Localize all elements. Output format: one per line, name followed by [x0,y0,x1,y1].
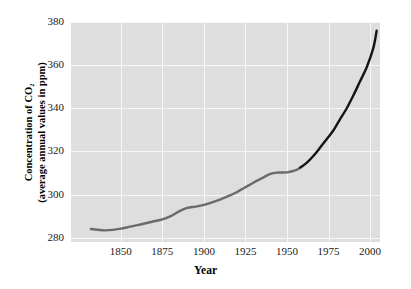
y-tick-label-300: 300 [48,189,65,200]
y-tick-label-380: 380 [48,16,65,27]
y-tick-label-340: 340 [48,102,65,113]
y-axis-title-line-2: (average annual values in ppm) [35,33,48,233]
x-tick-label-1975: 1975 [318,245,340,257]
x-tick-label-1900: 1900 [193,245,215,257]
x-axis-tick-labels: 1850187519001925195019752000 [0,245,411,261]
series-line-0 [91,168,300,231]
x-tick-label-1850: 1850 [110,245,132,257]
plot-area [71,22,380,242]
x-tick-label-1950: 1950 [276,245,298,257]
co2-concentration-chart: 280300320340360380 Concentration of CO₂ … [0,0,411,289]
y-tick-label-320: 320 [48,145,65,156]
y-axis-title: Concentration of CO₂ (average annual val… [23,33,48,233]
series-layer [71,22,380,242]
x-tick-label-1925: 1925 [234,245,256,257]
x-axis-title: Year [0,264,411,276]
y-axis-title-line-1: Concentration of CO₂ [23,84,34,182]
x-tick-label-1875: 1875 [151,245,173,257]
series-line-1 [300,31,376,168]
x-tick-label-2000: 2000 [359,245,381,257]
y-tick-label-280: 280 [48,232,65,243]
y-tick-label-360: 360 [48,59,65,70]
